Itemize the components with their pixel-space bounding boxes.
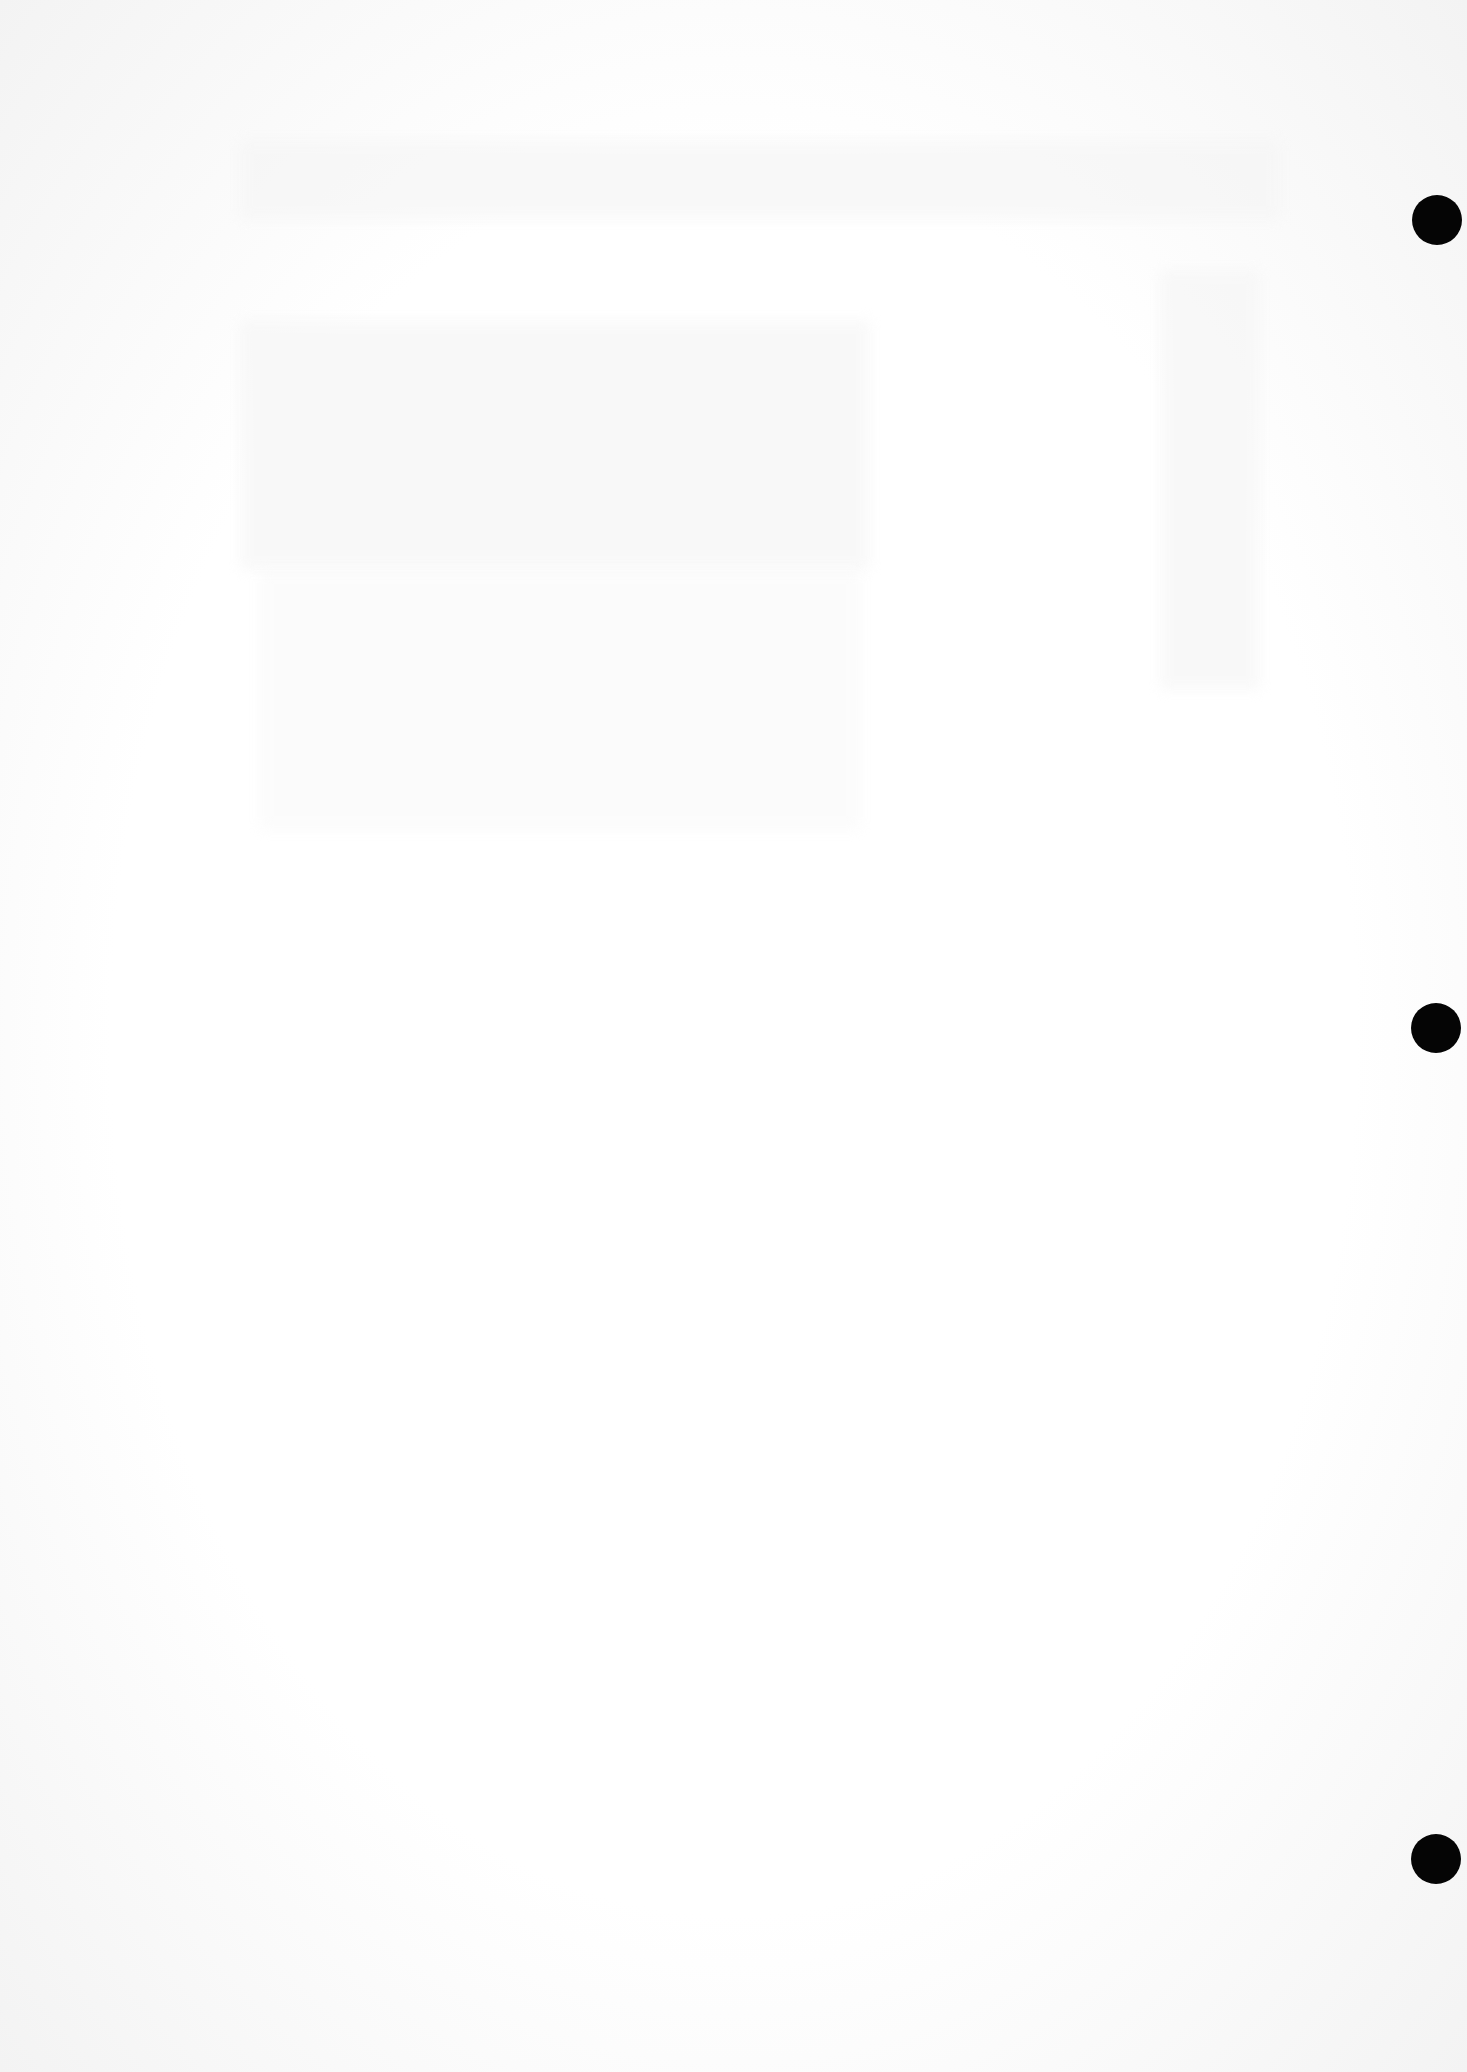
punch-hole-top (1412, 195, 1462, 245)
bleed-through-region-right-column (1160, 270, 1260, 690)
scanned-page (0, 0, 1467, 2072)
bleed-through-region-middle (260, 570, 860, 830)
punch-hole-bottom (1411, 1834, 1461, 1884)
punch-hole-middle (1411, 1003, 1461, 1053)
bleed-through-region-left-block (240, 320, 870, 570)
bleed-through-region-top (240, 140, 1280, 220)
